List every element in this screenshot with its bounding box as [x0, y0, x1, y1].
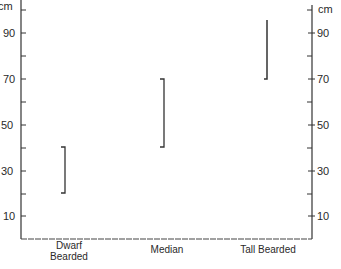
left-label-90: 90: [3, 27, 15, 39]
iris-height-chart: cm 90 70 50 30 10 cm 90 70 50 30 10 Dwar…: [0, 0, 341, 269]
right-label-10: 10: [317, 210, 329, 222]
left-label-50: 50: [1, 119, 13, 131]
category-label-median: Median: [151, 244, 184, 255]
left-label-30: 30: [1, 165, 13, 177]
left-ticks: [21, 10, 26, 216]
right-label-70: 70: [317, 73, 329, 85]
category-label-tall-bearded: Tall Bearded: [240, 244, 296, 255]
range-tall-bearded: [264, 20, 267, 79]
range-dwarf-bearded: [61, 147, 65, 193]
right-label-90: 90: [317, 27, 329, 39]
right-label-50: 50: [317, 119, 329, 131]
category-label-dwarf-line1: Dwarf: [56, 240, 82, 251]
right-ticks: [307, 10, 315, 216]
category-label-dwarf-line2: Bearded: [50, 251, 88, 262]
right-label-30: 30: [317, 165, 329, 177]
range-median: [160, 79, 164, 147]
left-label-70: 70: [3, 73, 15, 85]
left-label-10: 10: [3, 210, 15, 222]
right-unit-label: cm: [318, 3, 333, 15]
left-unit-label: cm: [0, 0, 13, 12]
